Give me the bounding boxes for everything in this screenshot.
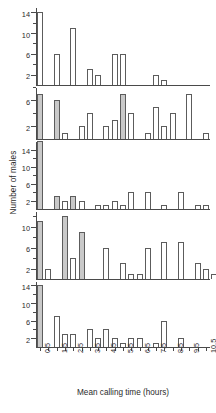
histogram-bar (70, 258, 76, 279)
y-axis-title: Number of males (9, 123, 18, 243)
x-axis-tick-label: 9.5 (192, 343, 201, 353)
histogram-bar (37, 285, 43, 347)
x-axis-tick-label: 1.5 (60, 343, 69, 353)
y-axis-tick-label: 14 (22, 9, 30, 18)
histogram-bar (178, 242, 184, 279)
x-axis-tick-label: 7.5 (159, 343, 168, 353)
x-axis-tick (156, 348, 157, 351)
x-axis-tick-label: 8.5 (176, 343, 185, 353)
x-axis-tick (140, 348, 141, 351)
plot-area: 261014 (36, 142, 210, 210)
histogram-bar (95, 205, 101, 209)
x-axis-line (36, 85, 210, 86)
panel-stack: 261014262610142610261014 (36, 8, 210, 350)
x-axis-tick (106, 348, 107, 351)
plot-area: 26 (36, 88, 210, 140)
x-axis-tick-label: 4.5 (109, 343, 118, 353)
histogram-bar (79, 201, 85, 210)
histogram-bar (120, 54, 126, 85)
x-axis-tick (57, 348, 58, 351)
histogram-bar (87, 329, 93, 347)
histogram-bar (161, 80, 167, 85)
histogram-bar (37, 12, 43, 85)
plot-area: 261014 (36, 282, 210, 348)
y-axis-tick-label: 14 (22, 282, 30, 291)
histogram-bar (79, 232, 85, 279)
histogram-bar (161, 242, 167, 279)
histogram-bar (195, 263, 201, 279)
histogram-bar (161, 205, 167, 209)
panel-4: 2610 (36, 212, 210, 280)
y-axis-tick-label: 6 (26, 51, 30, 60)
histogram-bar (128, 274, 134, 279)
y-axis-tick-label: 6 (26, 97, 30, 106)
histogram-bar (103, 126, 109, 139)
histogram-bar (79, 126, 85, 139)
histogram-bar (70, 28, 76, 85)
panel-1: 261014 (36, 8, 210, 86)
y-axis-tick-label: 2 (26, 198, 30, 207)
histogram-bar (186, 94, 192, 140)
x-axis-tick (40, 348, 41, 351)
histogram-bar (203, 205, 209, 209)
plot-area: 261014 (36, 8, 210, 86)
histogram-bar (203, 269, 209, 279)
histogram-bar (37, 141, 43, 209)
histogram-figure: Number of males 261014262610142610261014… (0, 0, 216, 413)
histogram-bar (112, 120, 118, 140)
histogram-bar (120, 263, 126, 279)
histogram-bar (112, 54, 118, 85)
y-axis-tick-label: 6 (26, 181, 30, 190)
x-axis-tick (206, 348, 207, 351)
x-axis-tick-label: 5.5 (126, 343, 135, 353)
histogram-bar (37, 221, 43, 279)
x-axis-tick-label: 0.5 (43, 343, 52, 353)
bar-group (36, 282, 210, 347)
y-axis-tick-label: 6 (26, 318, 30, 327)
x-axis-line (36, 279, 210, 280)
x-axis-tick-label: 6.5 (143, 343, 152, 353)
y-axis-tick-label: 2 (26, 72, 30, 81)
y-axis-tick-label: 14 (22, 147, 30, 156)
histogram-bar (87, 113, 93, 139)
panel-3: 261014 (36, 142, 210, 210)
histogram-bar (128, 192, 134, 209)
histogram-bar (170, 113, 176, 139)
histogram-bar (120, 94, 126, 140)
x-axis-tick-label: 10.5 (209, 339, 216, 353)
histogram-bar (137, 274, 143, 279)
plot-area: 2610 (36, 212, 210, 280)
histogram-bar (153, 107, 159, 140)
histogram-bar (145, 133, 151, 140)
histogram-bar (145, 192, 151, 209)
histogram-bar (145, 248, 151, 279)
y-axis-tick-label: 2 (26, 266, 30, 275)
histogram-bar (54, 316, 60, 347)
y-axis-tick-label: 10 (22, 224, 30, 233)
y-axis-tick-label: 10 (22, 300, 30, 309)
histogram-bar (153, 75, 159, 85)
bar-group (36, 88, 210, 139)
histogram-bar (203, 133, 209, 140)
x-axis-tick (189, 348, 190, 351)
histogram-bar (37, 94, 43, 140)
x-axis-tick (123, 348, 124, 351)
y-axis-tick-label: 2 (26, 335, 30, 344)
x-axis-line (36, 209, 210, 210)
histogram-bar (112, 201, 118, 210)
histogram-bar (54, 54, 60, 85)
histogram-bar (211, 274, 216, 279)
bar-group (36, 8, 210, 85)
histogram-bar (54, 100, 60, 139)
histogram-bar (103, 205, 109, 209)
histogram-bar (178, 192, 184, 209)
y-axis-tick-label: 10 (22, 30, 30, 39)
y-axis-tick-label: 6 (26, 245, 30, 254)
x-axis-tick (173, 348, 174, 351)
bar-group (36, 212, 210, 279)
histogram-bar (137, 338, 143, 347)
histogram-bar (62, 133, 68, 140)
y-axis-tick-label: 10 (22, 164, 30, 173)
histogram-bar (54, 196, 60, 209)
panel-5: 261014 (36, 282, 210, 348)
